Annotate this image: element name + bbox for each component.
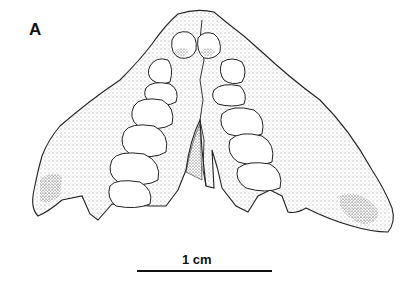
tooth-right-5 (237, 163, 281, 191)
tooth-right-1 (220, 59, 245, 84)
tooth-right-3 (221, 108, 263, 137)
tooth-right-2 (213, 85, 246, 106)
tooth-left-4 (122, 125, 167, 157)
scale-bar-line (137, 270, 272, 272)
tooth-left-6 (109, 181, 151, 208)
scale-bar-label: 1 cm (182, 252, 212, 267)
panel-label: A (29, 20, 41, 40)
fossil-palate-illustration (0, 0, 419, 286)
tooth-right-4 (229, 134, 273, 165)
tooth-left-3 (132, 99, 173, 129)
